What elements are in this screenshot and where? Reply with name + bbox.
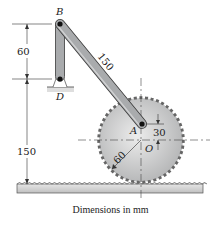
label-d: D xyxy=(55,91,64,102)
pin-a xyxy=(139,121,144,126)
rack-teeth xyxy=(17,183,207,185)
pin-d xyxy=(57,76,62,81)
label-o: O xyxy=(145,143,153,154)
mechanism-diagram: 60 30 150 60 xyxy=(0,0,221,225)
rack xyxy=(17,183,207,194)
bd-height-label: 60 xyxy=(17,46,30,57)
label-b: B xyxy=(55,6,63,17)
link-ba xyxy=(58,24,142,126)
caption: Dimensions in mm xyxy=(0,204,221,215)
oa-offset-label: 30 xyxy=(153,127,166,138)
label-a: A xyxy=(129,125,137,136)
pin-b xyxy=(57,21,62,26)
d-to-rack-label: 150 xyxy=(17,146,36,157)
